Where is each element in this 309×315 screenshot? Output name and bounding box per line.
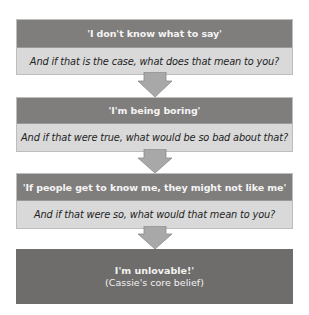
core-belief-label: I'm unlovable!' xyxy=(115,265,194,277)
step-1: 'I don't know what to say' And if that i… xyxy=(16,19,293,75)
question-label: And if that were so, what would that mea… xyxy=(17,201,292,228)
step-3: 'If people get to know me, they might no… xyxy=(16,173,293,229)
down-arrow-icon xyxy=(137,72,173,98)
question-label: And if that is the case, what does that … xyxy=(17,48,292,74)
core-belief-caption: (Cassie's core belief) xyxy=(105,277,204,289)
step-2: 'I'm being boring' And if that were true… xyxy=(16,97,293,152)
down-arrow-icon xyxy=(137,149,173,174)
thought-label: 'I don't know what to say' xyxy=(17,20,292,48)
core-belief-box: I'm unlovable!' (Cassie's core belief) xyxy=(16,249,293,304)
question-label: And if that were true, what would be so … xyxy=(17,124,292,151)
thought-label: 'I'm being boring' xyxy=(17,98,292,124)
down-arrow-icon xyxy=(137,226,173,250)
thought-label: 'If people get to know me, they might no… xyxy=(17,174,292,201)
